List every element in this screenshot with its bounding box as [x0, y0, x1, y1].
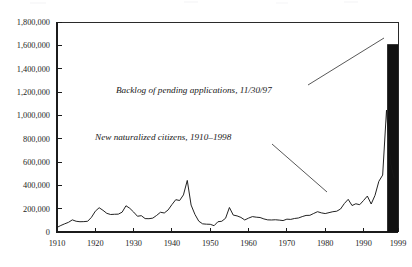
- x-tick-label: 1980: [317, 239, 334, 248]
- naturalization-chart: 0200,000400,000600,000800,0001,000,0001,…: [0, 0, 412, 267]
- x-tick-label: 1999: [390, 239, 407, 248]
- x-tick-label: 1990: [355, 239, 372, 248]
- naturalized-annotation: New naturalized citizens, 1910–1998: [94, 132, 232, 142]
- x-tick-label: 1920: [87, 239, 104, 248]
- y-tick-label: 1,400,000: [17, 65, 50, 74]
- x-tick-label: 1940: [164, 239, 181, 248]
- x-tick-label: 1930: [125, 239, 142, 248]
- x-tick-label: 1910: [49, 239, 66, 248]
- y-tick-label: 600,000: [23, 158, 50, 167]
- y-tick-label: 1,000,000: [17, 111, 50, 120]
- y-tick-label: 200,000: [23, 205, 50, 214]
- y-tick-label: 0: [46, 228, 50, 237]
- backlog-annotation: Backlog of pending applications, 11/30/9…: [116, 85, 272, 95]
- y-tick-label: 1,600,000: [17, 41, 50, 50]
- x-tick-label: 1970: [279, 239, 296, 248]
- y-tick-label: 1,800,000: [17, 18, 50, 27]
- y-tick-label: 1,200,000: [17, 88, 50, 97]
- chart-figure: 0200,000400,000600,000800,0001,000,0001,…: [0, 0, 412, 267]
- x-tick-label: 1950: [202, 239, 219, 248]
- x-tick-label: 1960: [240, 239, 257, 248]
- y-tick-label: 400,000: [23, 181, 50, 190]
- y-tick-label: 800,000: [23, 135, 50, 144]
